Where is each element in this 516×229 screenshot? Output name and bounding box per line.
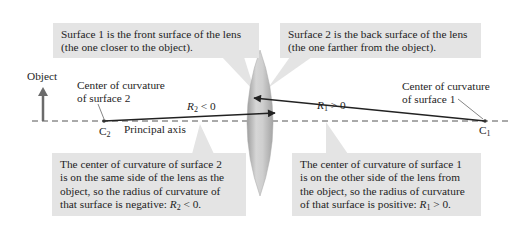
callout-center2-line3: object, so the radius of curvature of <box>60 185 238 198</box>
callout-surface1-line1: Surface 1 is the front surface of the le… <box>61 28 251 41</box>
callout-center1-line2: is on the other side of the lens from <box>300 171 473 184</box>
r1-label: R1 > 0 <box>317 99 346 112</box>
callout-center2-line4: that surface is negative: R2 < 0. <box>60 198 238 211</box>
r2-label: R2 < 0 <box>187 100 216 113</box>
callout-center1-line4: of that surface is positive: R1 > 0. <box>300 198 473 211</box>
c1-symbol: C <box>479 124 487 136</box>
center2-label: Center of curvature of surface 2 <box>77 79 165 104</box>
principal-axis-label: Principal axis <box>124 123 186 136</box>
callout-center1: The center of curvature of surface 1 is … <box>292 153 481 216</box>
callout-center1-line3: the object, so the radius of curvature <box>300 185 473 198</box>
callout-center1-line1: The center of curvature of surface 1 <box>300 158 473 171</box>
c1-label: C1 <box>479 124 491 137</box>
object-label: Object <box>27 70 57 83</box>
callout-center2-line4-prefix: that surface is negative: <box>60 198 170 210</box>
r1-label-relation: > 0 <box>328 99 346 111</box>
callout-surface1: Surface 1 is the front surface of the le… <box>53 23 259 58</box>
r2-relation: < 0. <box>181 198 202 210</box>
lens-shape <box>247 50 273 196</box>
r2-symbol: R <box>170 198 177 210</box>
object-arrow-head <box>38 87 48 96</box>
callout-tail-center1 <box>326 122 348 154</box>
r1-label-symbol: R <box>317 99 324 111</box>
callout-center2: The center of curvature of surface 2 is … <box>52 153 246 216</box>
callout-tail-surface2 <box>268 57 312 88</box>
callout-surface2: Surface 2 is the back surface of the len… <box>280 23 481 58</box>
c2-subscript: 2 <box>107 130 111 139</box>
r2-label-relation: < 0 <box>198 100 216 112</box>
callout-surface2-line1: Surface 2 is the back surface of the len… <box>288 28 473 41</box>
center1-label-line1: Center of curvature <box>402 80 490 93</box>
c1-subscript: 1 <box>487 129 491 138</box>
c1-point <box>483 119 487 123</box>
c2-point <box>102 119 106 123</box>
r2-label-symbol: R <box>187 100 194 112</box>
callout-surface1-line2: (the one closer to the object). <box>61 41 251 54</box>
center1-label: Center of curvature of surface 1 <box>402 80 490 105</box>
callout-center1-line4-prefix: of that surface is positive: <box>300 198 420 210</box>
callout-surface2-line2: (the one farther from the object). <box>288 41 473 54</box>
r1-relation: > 0. <box>430 198 451 210</box>
center2-label-line1: Center of curvature <box>77 79 165 92</box>
lens-curvature-diagram: Surface 1 is the front surface of the le… <box>0 0 516 229</box>
center2-label-line2: of surface 2 <box>77 92 165 105</box>
callout-center2-line1: The center of curvature of surface 2 <box>60 158 238 171</box>
c2-symbol: C <box>99 125 107 137</box>
c2-label: C2 <box>99 125 111 138</box>
callout-tail-center2 <box>192 124 214 154</box>
center1-label-line2: of surface 1 <box>402 93 490 106</box>
callout-center2-line2: is on the same side of the lens as the <box>60 171 238 184</box>
c2-leader-line <box>98 104 104 119</box>
